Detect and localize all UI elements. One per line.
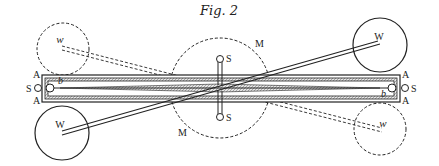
label-w-bottom-left: W bbox=[55, 119, 65, 130]
weight-circle-w-bottom-left bbox=[35, 106, 89, 160]
label-m-bottom: M bbox=[178, 127, 187, 138]
label-a-right-bottom: A bbox=[402, 95, 410, 106]
label-s-left: S bbox=[26, 83, 32, 94]
loop-s-left bbox=[35, 85, 42, 92]
post-s-top bbox=[217, 56, 224, 63]
label-s-bottom: S bbox=[226, 112, 232, 123]
label-s-right: S bbox=[411, 83, 417, 94]
label-w-top-left: w bbox=[56, 33, 64, 45]
figure-2-diagram: Fig. 2 M M w w b b S S A A A A S S W W bbox=[0, 0, 439, 166]
weight-circle-w-top-left bbox=[37, 23, 89, 75]
weight-circle-w-bottom-right bbox=[354, 103, 406, 155]
weight-circle-w-top-right bbox=[353, 18, 407, 72]
label-w-top-right: W bbox=[374, 31, 384, 42]
label-b-left: b bbox=[58, 75, 63, 86]
pivot-b-right bbox=[388, 84, 396, 92]
label-b-right: b bbox=[381, 88, 386, 99]
label-m-top: M bbox=[255, 38, 264, 49]
pivot-b-left bbox=[46, 84, 54, 92]
label-a-right-top: A bbox=[402, 69, 410, 80]
label-w-bottom-right: w bbox=[379, 117, 387, 129]
label-a-left-bottom: A bbox=[33, 95, 41, 106]
label-s-top: S bbox=[226, 53, 232, 64]
label-a-left-top: A bbox=[33, 69, 41, 80]
post-s-bottom bbox=[217, 114, 224, 121]
figure-title: Fig. 2 bbox=[199, 3, 238, 18]
loop-s-right bbox=[402, 85, 409, 92]
